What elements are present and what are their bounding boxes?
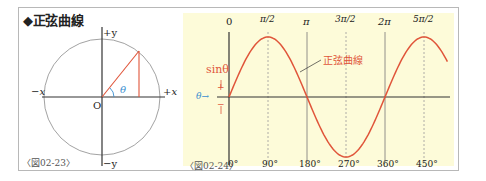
tick-top-pi: π xyxy=(303,16,310,27)
tick-top-pi-half: π/2 xyxy=(260,14,275,24)
sin-axis-label: sinθ xyxy=(206,63,229,76)
figure2-caption: 〈図02-24〉 xyxy=(185,159,238,172)
curve-label-leader xyxy=(300,60,321,72)
tick-bottom-360: 360° xyxy=(377,159,399,169)
curve-label: 正弦曲線 xyxy=(323,52,363,67)
tick-top-0: 0 xyxy=(226,16,232,27)
tick-bottom-90: 90° xyxy=(262,159,278,169)
sine-chart xyxy=(0,0,486,181)
tick-bottom-450: 450° xyxy=(416,159,438,169)
tick-bottom-180: 180° xyxy=(299,159,321,169)
tick-bottom-270: 270° xyxy=(338,159,360,169)
tick-top-2pi: 2π xyxy=(378,16,391,27)
theta-arrow-label: θ→ xyxy=(196,91,209,101)
plus-sign: + xyxy=(217,82,225,92)
minus-sign: − xyxy=(217,99,225,109)
tick-top-3pi-half: 3π/2 xyxy=(335,14,355,24)
tick-top-5pi-half: 5π/2 xyxy=(413,14,433,24)
